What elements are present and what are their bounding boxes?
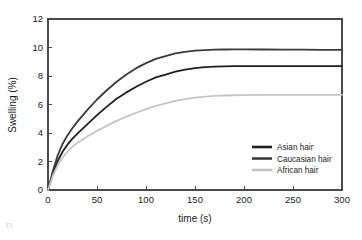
y-tick-label: 12: [32, 13, 43, 24]
figure-container: 024681012 050100150200250300 time (s) Sw…: [0, 0, 362, 240]
x-tick-label: 200: [236, 194, 252, 205]
y-tick-label: 6: [38, 99, 43, 110]
legend-label: Caucasian hair: [277, 155, 332, 164]
legend-label: African hair: [277, 166, 319, 175]
x-tick-label: 300: [334, 194, 350, 205]
y-tick-label: 0: [38, 184, 43, 195]
y-tick-label: 4: [38, 127, 43, 138]
y-tick-label: 2: [38, 156, 43, 167]
y-axis-ticks: 024681012: [32, 13, 52, 195]
chart-legend: Asian hairCaucasian hairAfrican hair: [252, 143, 332, 175]
legend-label: Asian hair: [277, 143, 314, 152]
swelling-vs-time-chart: 024681012 050100150200250300 time (s) Sw…: [0, 0, 362, 240]
x-axis-ticks: 050100150200250300: [45, 186, 350, 205]
y-tick-label: 8: [38, 70, 43, 81]
y-tick-label: 10: [32, 42, 43, 53]
x-tick-label: 150: [187, 194, 203, 205]
x-axis-title: time (s): [178, 213, 211, 224]
y-axis-title: Swelling (%): [7, 77, 18, 133]
x-tick-label: 0: [45, 194, 50, 205]
x-tick-label: 250: [285, 194, 301, 205]
caption-fragment: Fi: [6, 222, 13, 229]
x-tick-label: 100: [138, 194, 154, 205]
x-tick-label: 50: [92, 194, 103, 205]
